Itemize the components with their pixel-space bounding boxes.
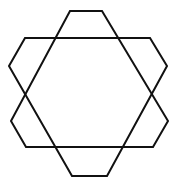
hexagon-b xyxy=(9,38,167,176)
star-diagram xyxy=(0,0,172,188)
hexagon-a xyxy=(11,11,168,147)
